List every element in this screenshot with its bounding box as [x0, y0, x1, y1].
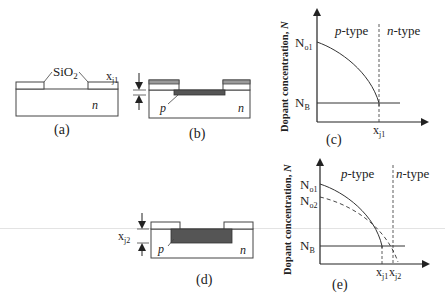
- y-axis-label: Dopant concentration, N: [282, 164, 293, 275]
- profile-curve-1: [320, 184, 382, 248]
- substrate-label: n: [238, 101, 244, 115]
- oxide-label: SiO2: [53, 64, 78, 81]
- caption-a: (a): [54, 122, 70, 138]
- profile-curve-2: [320, 197, 398, 262]
- p-region-deep: [171, 229, 232, 243]
- p-region-label: p: [159, 101, 166, 115]
- profile-curve-1: [317, 42, 379, 106]
- panel-a-wafer: SiO2 n (a): [16, 64, 118, 138]
- p-region-shallow: [174, 90, 225, 95]
- substrate-label: n: [92, 98, 98, 112]
- oxide-pad-left: [16, 82, 44, 89]
- oxide-leader-right: [79, 72, 88, 82]
- chart-e: Dopant concentration, N p-type n-type No…: [282, 160, 429, 293]
- tick-No1: No1: [300, 177, 317, 194]
- n-type-label: n-type: [387, 23, 420, 38]
- n-type-label: n-type: [396, 166, 429, 181]
- tick-xj1: xj1: [376, 265, 388, 281]
- oxide-leader-left: [44, 72, 52, 82]
- y-axis-label: Dopant concentration, N: [279, 21, 290, 132]
- xj2-depth-label: xj2: [118, 229, 130, 245]
- tick-NB: NB: [295, 95, 310, 112]
- tick-No1: No1: [295, 35, 312, 52]
- caption-b: (b): [189, 126, 206, 142]
- substrate-label: n: [240, 243, 246, 257]
- xj1-depth-label: xj1: [106, 69, 118, 85]
- p-type-label: p-type: [334, 23, 368, 38]
- chart-c: Dopant concentration, N p-type n-type No…: [279, 10, 427, 148]
- p-type-label: p-type: [340, 166, 374, 181]
- oxide-pad-right: [224, 222, 253, 229]
- panel-b-wafer: p n xj1 (b): [106, 69, 250, 142]
- tick-xj1: xj1: [373, 123, 385, 139]
- tick-NB: NB: [300, 238, 315, 255]
- p-region-label: p: [157, 242, 164, 256]
- caption-c: (c): [326, 132, 342, 148]
- panel-d-wafer: p n xj2 (d): [118, 213, 253, 288]
- caption-e: (e): [332, 277, 348, 293]
- oxide-pad-left: [151, 222, 180, 229]
- tick-No2: No2: [300, 193, 317, 210]
- tick-xj2: xj2: [389, 265, 401, 281]
- caption-d: (d): [196, 272, 213, 288]
